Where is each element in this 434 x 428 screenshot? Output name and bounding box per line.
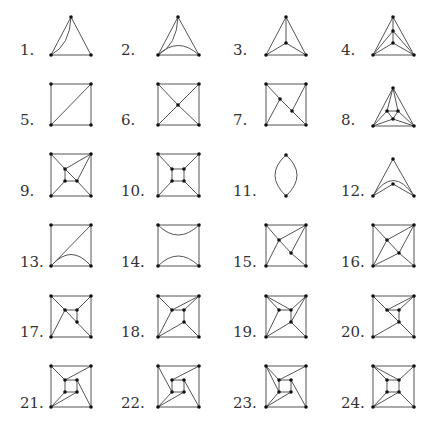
vertex bbox=[182, 167, 186, 171]
edge bbox=[158, 392, 184, 407]
vertex bbox=[391, 182, 395, 186]
vertex bbox=[182, 378, 186, 382]
vertex bbox=[176, 15, 180, 19]
edge bbox=[373, 392, 387, 407]
vertex bbox=[89, 364, 93, 368]
edge bbox=[373, 322, 399, 337]
edge bbox=[51, 84, 91, 125]
graph-label-22: 22. bbox=[121, 394, 145, 412]
graph-18 bbox=[156, 294, 201, 339]
graph-label-15: 15. bbox=[233, 253, 257, 271]
vertex bbox=[156, 123, 160, 127]
graph-23 bbox=[264, 364, 308, 409]
vertex bbox=[304, 364, 308, 368]
vertex bbox=[391, 29, 395, 33]
graph-20 bbox=[371, 294, 416, 339]
vertex bbox=[197, 152, 201, 156]
graph-label-13: 13. bbox=[20, 253, 44, 271]
graph-label-4: 4. bbox=[341, 41, 355, 59]
edge bbox=[51, 366, 65, 380]
vertex bbox=[156, 194, 160, 198]
graph-label-16: 16. bbox=[341, 253, 365, 271]
edge bbox=[172, 366, 199, 380]
edge bbox=[51, 296, 65, 310]
graph-19 bbox=[264, 294, 308, 339]
graph-10 bbox=[156, 152, 201, 198]
graph-label-6: 6. bbox=[121, 111, 135, 129]
vertex bbox=[304, 123, 308, 127]
vertex bbox=[289, 251, 293, 255]
vertex bbox=[371, 53, 375, 57]
graph-label-1: 1. bbox=[20, 41, 34, 59]
graph-label-5: 5. bbox=[20, 111, 34, 129]
vertex bbox=[197, 364, 201, 368]
vertex bbox=[277, 238, 281, 242]
vertex bbox=[304, 53, 308, 57]
edge bbox=[51, 392, 77, 407]
edge bbox=[291, 322, 306, 337]
vertex bbox=[264, 123, 268, 127]
graph-9 bbox=[49, 152, 93, 198]
vertex bbox=[49, 335, 53, 339]
vertex bbox=[89, 264, 93, 268]
curved-edge bbox=[158, 225, 199, 235]
graph-figure bbox=[0, 0, 434, 428]
graph-label-14: 14. bbox=[121, 253, 145, 271]
graph-3 bbox=[264, 15, 308, 57]
vertex bbox=[170, 167, 174, 171]
edge bbox=[65, 310, 91, 337]
vertex bbox=[391, 41, 395, 45]
edge bbox=[266, 366, 279, 392]
vertex bbox=[89, 294, 93, 298]
graph-label-23: 23. bbox=[233, 394, 257, 412]
vertex bbox=[170, 308, 174, 312]
graph-label-7: 7. bbox=[233, 111, 247, 129]
vertex bbox=[89, 123, 93, 127]
edge bbox=[178, 105, 199, 125]
vertex bbox=[412, 53, 416, 57]
vertex bbox=[156, 152, 160, 156]
edge bbox=[373, 225, 387, 240]
vertex bbox=[289, 390, 293, 394]
edge bbox=[77, 181, 91, 196]
vertex bbox=[49, 223, 53, 227]
vertex bbox=[304, 223, 308, 227]
vertex bbox=[182, 390, 186, 394]
graph-5 bbox=[49, 82, 93, 127]
edge bbox=[172, 296, 199, 310]
edge bbox=[399, 392, 414, 407]
vertex bbox=[264, 294, 268, 298]
vertex bbox=[289, 378, 293, 382]
vertex bbox=[289, 308, 293, 312]
vertex bbox=[49, 152, 53, 156]
vertex bbox=[49, 405, 53, 409]
edge bbox=[393, 88, 398, 111]
edge bbox=[266, 296, 291, 310]
vertex bbox=[385, 238, 389, 242]
vertex bbox=[304, 335, 308, 339]
vertex bbox=[69, 15, 73, 19]
vertex bbox=[156, 294, 160, 298]
vertex bbox=[391, 15, 395, 19]
graph-label-10: 10. bbox=[121, 182, 145, 200]
edge bbox=[178, 17, 199, 55]
edge bbox=[387, 296, 414, 310]
graph-15 bbox=[264, 223, 308, 268]
edge bbox=[373, 296, 387, 310]
vertex bbox=[397, 320, 401, 324]
vertex bbox=[176, 103, 180, 107]
vertex bbox=[170, 179, 174, 183]
edge bbox=[51, 310, 65, 337]
edge bbox=[184, 322, 199, 337]
edge bbox=[77, 380, 91, 407]
edge bbox=[65, 366, 91, 380]
edge bbox=[373, 366, 399, 380]
edge bbox=[71, 17, 91, 55]
vertex bbox=[197, 335, 201, 339]
curved-edge bbox=[158, 46, 199, 56]
edge bbox=[158, 392, 172, 407]
vertex bbox=[371, 194, 375, 198]
graph-label-17: 17. bbox=[20, 323, 44, 341]
graph-label-9: 9. bbox=[20, 182, 34, 200]
vertex bbox=[197, 405, 201, 409]
